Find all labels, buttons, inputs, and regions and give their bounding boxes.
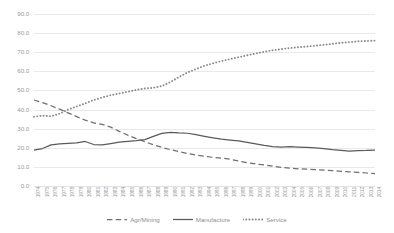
x-axis-tick-label: 1990 (173, 187, 178, 197)
x-axis-tick-label: 1977 (62, 187, 67, 197)
x-axis-tick-label: 1983 (113, 187, 118, 197)
series-line-manufacture (34, 132, 375, 151)
x-axis-tick-label: 1982 (104, 187, 109, 197)
x-axis-tick-label: 2002 (275, 187, 280, 197)
y-axis-tick-label: 50.0 (17, 87, 29, 93)
legend-label: Agr/Mining (130, 216, 160, 223)
x-axis-tick-label: 2007 (318, 187, 323, 197)
chart-container: 0.010.020.030.040.050.060.070.080.090.0 … (0, 0, 394, 233)
x-axis-tick-label: 1988 (156, 187, 161, 197)
x-axis-tick-label: 1999 (249, 187, 254, 197)
x-axis-tick-label: 2010 (343, 187, 348, 197)
x-axis-tick-label: 1985 (130, 187, 135, 197)
y-axis: 0.010.020.030.040.050.060.070.080.090.0 (0, 14, 32, 186)
x-axis-tick-label: 1998 (241, 187, 246, 197)
chart-legend: Agr/MiningManufactureService (0, 212, 394, 226)
x-axis-tick-label: 1984 (121, 187, 126, 197)
x-axis-tick-label: 2014 (377, 187, 382, 197)
x-axis-tick-label: 1995 (215, 187, 220, 197)
x-axis-tick-label: 1979 (79, 187, 84, 197)
x-axis-tick-label: 2012 (360, 187, 365, 197)
x-axis-tick-label: 1989 (164, 187, 169, 197)
x-axis-tick-label: 1978 (70, 187, 75, 197)
x-axis-tick-label: 2000 (258, 187, 263, 197)
y-axis-tick-label: 40.0 (17, 106, 29, 112)
x-axis-tick-label: 1997 (232, 187, 237, 197)
y-axis-tick-label: 20.0 (17, 145, 29, 151)
legend-swatch-dashed (107, 216, 127, 223)
x-axis-tick-label: 1976 (53, 187, 58, 197)
x-axis-tick-label: 2011 (352, 187, 357, 197)
x-axis-tick-label: 2004 (292, 187, 297, 197)
legend-swatch-solid (173, 216, 193, 223)
chart-title (4, 0, 304, 3)
legend-item-manufacture[interactable]: Manufacture (173, 216, 230, 223)
x-axis-tick-label: 2003 (283, 187, 288, 197)
y-axis-tick-label: 60.0 (17, 68, 29, 74)
x-axis-tick-label: 1987 (147, 187, 152, 197)
legend-item-service[interactable]: Service (243, 216, 287, 223)
x-axis-tick-label: 1992 (190, 187, 195, 197)
x-axis-tick-label: 1991 (181, 187, 186, 197)
x-axis-tick-label: 1981 (96, 187, 101, 197)
x-axis-tick-label: 1996 (224, 187, 229, 197)
x-axis-tick-label: 1975 (45, 187, 50, 197)
x-axis-tick-label: 2001 (266, 187, 271, 197)
legend-item-agr-mining[interactable]: Agr/Mining (107, 216, 160, 223)
x-axis-tick-label: 2008 (326, 187, 331, 197)
series-layer (34, 14, 375, 186)
legend-label: Service (266, 216, 287, 223)
x-axis-tick-label: 1986 (139, 187, 144, 197)
x-axis-tick-label: 2013 (369, 187, 374, 197)
x-axis-tick-label: 1993 (198, 187, 203, 197)
y-axis-tick-label: 10.0 (17, 164, 29, 170)
plot-area (34, 14, 375, 186)
x-axis: 1974197519761977197819791980198119821983… (34, 187, 375, 211)
y-axis-tick-label: 0.0 (21, 183, 29, 189)
x-axis-tick-label: 2005 (300, 187, 305, 197)
y-axis-tick-label: 70.0 (17, 49, 29, 55)
x-axis-tick-label: 1994 (207, 187, 212, 197)
y-axis-tick-label: 30.0 (17, 126, 29, 132)
y-axis-tick-label: 90.0 (17, 11, 29, 17)
legend-label: Manufacture (196, 216, 230, 223)
legend-swatch-dotted (243, 216, 263, 223)
x-axis-tick-label: 2009 (335, 187, 340, 197)
series-line-service (34, 41, 375, 117)
y-axis-tick-label: 80.0 (17, 30, 29, 36)
x-axis-tick-label: 1974 (36, 187, 41, 197)
x-axis-tick-label: 1980 (87, 187, 92, 197)
x-axis-tick-label: 2006 (309, 187, 314, 197)
